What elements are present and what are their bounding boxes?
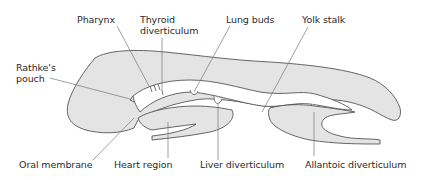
label-yolk-stalk: Yolk stalk [302,14,345,25]
label-oral-membrane: Oral membrane [19,159,93,170]
label-thyroid-line2: diverticulum [140,25,198,36]
label-heart-region: Heart region [114,159,172,170]
label-lung-buds: Lung buds [226,14,274,25]
label-pharynx: Pharynx [77,14,115,25]
label-rathke-line1: Rathke's [16,62,56,73]
label-rathke-line2: pouch [16,73,45,84]
embryo-diagram: Pharynx Thyroid diverticulum Lung buds Y… [0,0,427,180]
embryo-illustration [0,0,427,180]
label-liver-diverticulum: Liver diverticulum [200,159,284,170]
allantois-lobe-shape [269,105,381,144]
label-thyroid-line1: Thyroid [140,14,175,25]
label-allantoic-diverticulum: Allantoic diverticulum [305,159,406,170]
